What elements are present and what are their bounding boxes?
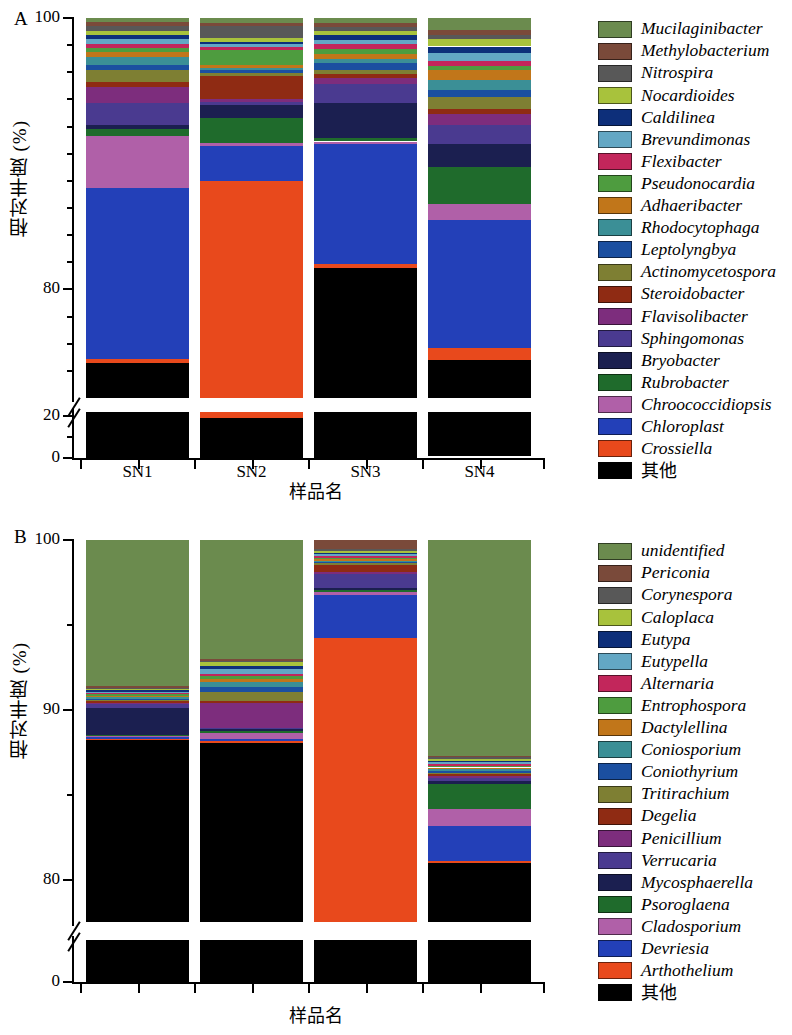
bar-segment [314, 540, 417, 549]
bar-segment [86, 740, 189, 922]
bar-segment [86, 188, 189, 359]
y-axis-tick-major [63, 457, 74, 459]
legend-item: Coniosporium [598, 739, 753, 761]
bar-segment [314, 638, 417, 922]
stacked-bar [86, 540, 189, 922]
legend-item: Caldilinea [598, 106, 776, 128]
y-axis-tick-minor [67, 261, 74, 263]
legend-swatch-icon [598, 984, 632, 1001]
bar-segment [314, 84, 417, 103]
bar-segment [86, 87, 189, 103]
bar-segment [428, 809, 531, 826]
y-axis-tick-label: 80 [18, 278, 60, 298]
bar-segment [428, 412, 531, 456]
y-axis-tick-label: 100 [18, 529, 60, 549]
legend-swatch-icon [598, 631, 632, 648]
y-axis-tick-minor [67, 343, 74, 345]
bar-segment [200, 105, 303, 119]
legend-swatch-icon [598, 396, 632, 413]
legend-swatch-icon [598, 330, 632, 347]
y-axis-tick-label: 80 [18, 869, 60, 889]
legend-swatch-icon [598, 896, 632, 913]
bar-segment [428, 826, 531, 862]
stacked-bar [314, 412, 417, 458]
x-axis-tick-label: SN1 [76, 462, 199, 482]
legend-swatch-icon [598, 286, 632, 303]
bar-segment [86, 940, 189, 982]
x-axis-tick [194, 460, 196, 469]
legend-item: Dactylellina [598, 717, 753, 739]
legend-item-label: Dactylellina [641, 719, 728, 737]
y-axis-tick-minor [67, 624, 74, 626]
y-axis-tick-minor [67, 153, 74, 155]
stacked-bar [428, 412, 531, 458]
bar-segment [86, 412, 189, 458]
bar-segment [428, 360, 531, 398]
y-axis-tick-label: 20 [18, 405, 60, 425]
y-axis-tick-label: 0 [18, 447, 60, 467]
bar-segment [428, 167, 531, 204]
legend-item-label: Verrucaria [641, 852, 717, 870]
y-axis-tick-label: 0 [18, 971, 60, 991]
bar-segment [86, 57, 189, 65]
legend-swatch-icon [598, 219, 632, 236]
stacked-bar [428, 940, 531, 982]
legend-item: Pseudonocardia [598, 173, 776, 195]
x-axis-tick [422, 460, 424, 469]
y-axis-tick-minor [67, 207, 74, 209]
legend-item: Methylobacterium [598, 40, 776, 62]
legend-item-label: Coniosporium [641, 741, 741, 759]
x-axis-tick [308, 460, 310, 469]
legend-item-label: 其他 [641, 462, 677, 480]
legend-swatch-icon [598, 153, 632, 170]
panel-a-legend: MucilaginibacterMethylobacteriumNitrospi… [598, 18, 776, 482]
stacked-bar [314, 540, 417, 922]
legend-item: Adhaeribacter [598, 195, 776, 217]
legend-item: Eutypa [598, 628, 753, 650]
x-axis-end-tick [543, 984, 545, 993]
legend-item-label: Bryobacter [641, 352, 720, 370]
stacked-bar [428, 540, 531, 922]
bar-segment [200, 540, 303, 659]
legend-item-label: Devriesia [641, 940, 709, 958]
legend-swatch-icon [598, 565, 632, 582]
legend-item-label: Tritirachium [641, 785, 730, 803]
panel-a-y-axis-title: 相对丰度 (%) [6, 120, 33, 237]
legend-item-label: Arthothelium [641, 962, 733, 980]
legend-item: Actinomycetospora [598, 261, 776, 283]
legend-item-label: Caloplaca [641, 609, 714, 627]
legend-item: Chloroplast [598, 416, 776, 438]
x-axis-tick [308, 984, 310, 993]
legend-item: Penicillium [598, 827, 753, 849]
legend-item-label: Pseudonocardia [641, 175, 755, 193]
y-axis-tick-minor [67, 370, 74, 372]
legend-swatch-icon [598, 543, 632, 560]
panel-a: A 相对丰度 (%) 80100020SN1SN2SN3SN4 样品名 Muci… [0, 0, 792, 512]
y-axis-tick-minor [67, 794, 74, 796]
x-axis-tick [80, 460, 82, 469]
legend-item-label: Eutypella [641, 653, 708, 671]
y-axis-tick-major [63, 17, 74, 19]
legend-item-label: Methylobacterium [641, 42, 769, 60]
bar-segment [200, 118, 303, 142]
y-axis-line [72, 540, 74, 926]
panel-b-x-axis-title: 样品名 [206, 1001, 426, 1027]
legend-swatch-icon [598, 109, 632, 126]
legend-item-label: Nitrospira [641, 64, 713, 82]
stacked-bar [86, 18, 189, 398]
legend-item: Degelia [598, 805, 753, 827]
bar-segment [428, 97, 531, 109]
bar-segment [200, 940, 303, 982]
y-axis-tick-major [63, 539, 74, 541]
bar-segment [428, 940, 531, 982]
legend-item-label: Chloroplast [641, 418, 724, 436]
bar-segment [200, 703, 303, 728]
legend-item: Devriesia [598, 938, 753, 960]
stacked-bar [200, 412, 303, 458]
legend-swatch-icon [598, 43, 632, 60]
bar-segment [314, 595, 417, 638]
y-axis-tick-major [63, 288, 74, 290]
y-axis-tick-label: 100 [18, 7, 60, 27]
legend-item: Verrucaria [598, 849, 753, 871]
legend-swatch-icon [598, 65, 632, 82]
